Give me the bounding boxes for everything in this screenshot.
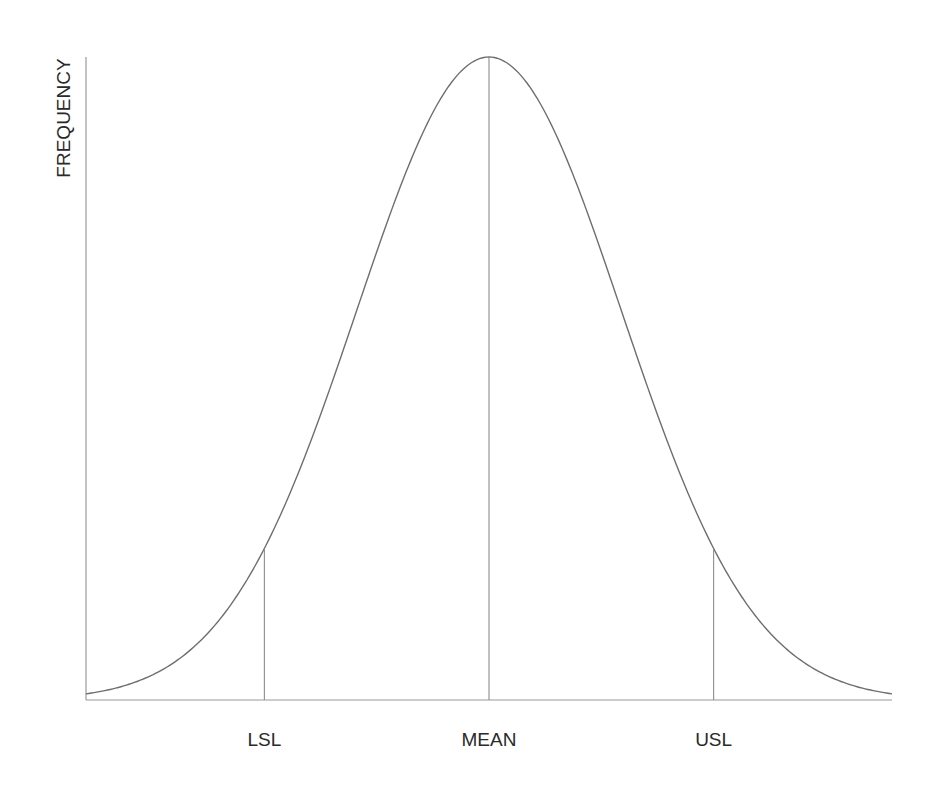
specification-markers: [264, 57, 713, 700]
plot-area: LSLMEANUSL: [86, 57, 892, 750]
mean-label: MEAN: [462, 729, 517, 750]
x-tick-labels: LSLMEANUSL: [247, 729, 732, 750]
y-axis-title: FREQUENCY: [53, 58, 74, 178]
usl-label: USL: [695, 729, 732, 750]
lsl-label: LSL: [247, 729, 281, 750]
normal-distribution-chart: LSLMEANUSL FREQUENCY: [0, 0, 943, 789]
